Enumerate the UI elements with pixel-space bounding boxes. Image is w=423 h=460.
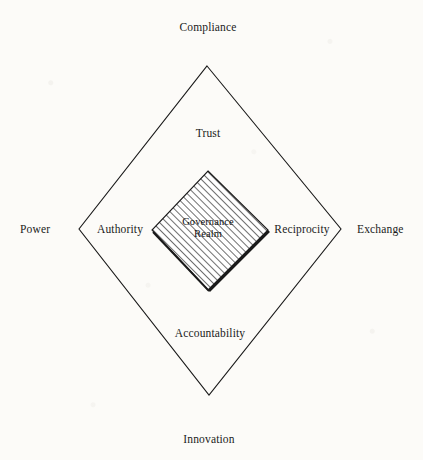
label-authority: Authority: [97, 223, 143, 236]
diagram-canvas: Compliance Innovation Power Exchange Tru…: [0, 0, 423, 460]
label-power: Power: [20, 223, 50, 236]
label-governance-realm-line1: Governance: [182, 216, 234, 228]
label-governance-realm-line2: Realm: [182, 228, 234, 240]
label-innovation: Innovation: [183, 433, 234, 446]
label-trust: Trust: [196, 127, 221, 140]
label-exchange: Exchange: [357, 223, 404, 236]
label-accountability: Accountability: [175, 327, 245, 340]
label-compliance: Compliance: [179, 21, 236, 34]
label-reciprocity: Reciprocity: [274, 223, 329, 236]
label-governance-realm: Governance Realm: [182, 216, 234, 239]
